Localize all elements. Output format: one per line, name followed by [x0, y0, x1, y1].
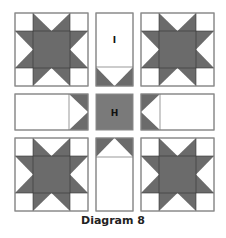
strip-label-i: I	[113, 35, 116, 45]
sashing-right	[141, 94, 214, 130]
diagram-caption: Diagram 8	[0, 214, 226, 227]
star-block-bottom-right	[141, 138, 214, 211]
star-block-bottom-left	[15, 138, 88, 211]
quilt-diagram: I H	[0, 0, 226, 238]
star-block-top-left	[15, 13, 88, 86]
star-block-top-right	[141, 13, 214, 86]
center-square: H	[96, 94, 133, 130]
sashing-left	[15, 94, 88, 130]
sashing-top: I	[96, 13, 133, 86]
sashing-bottom	[96, 138, 133, 211]
center-label-h: H	[111, 108, 119, 118]
